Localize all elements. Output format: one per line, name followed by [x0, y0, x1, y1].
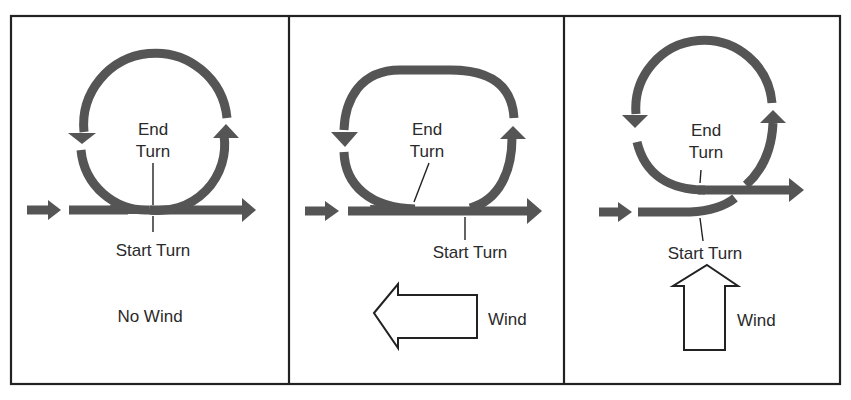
panel-no-wind: End Turn Start Turn No Wind: [27, 53, 256, 326]
end-turn-label-line1: End: [691, 121, 721, 140]
start-turn-label: Start Turn: [433, 243, 508, 262]
entry-arrow-icon: [27, 200, 61, 220]
wind-label: Wind: [488, 310, 527, 329]
entry-arrow-icon: [599, 202, 632, 222]
end-turn-leader: [414, 163, 429, 202]
wind-arrow-up-icon: [673, 265, 738, 350]
start-turn-label: Start Turn: [668, 244, 743, 263]
no-wind-label: No Wind: [117, 307, 182, 326]
end-turn-leader: [700, 170, 701, 183]
start-turn-label: Start Turn: [116, 241, 191, 260]
panel-wind-left: End Turn Start Turn Wind: [305, 70, 542, 348]
end-turn-label-line1: End: [138, 120, 168, 139]
entry-arrow-icon: [305, 201, 339, 221]
panel-wind-up: End Turn Start Turn Wind: [599, 40, 804, 350]
end-turn-label-line2: Turn: [410, 142, 444, 161]
end-turn-label-line1: End: [412, 120, 442, 139]
turn-diagram: End Turn Start Turn No Wind End Turn: [0, 0, 851, 400]
wind-arrow-left-icon: [374, 284, 477, 348]
wind-label: Wind: [737, 311, 776, 330]
start-turn-leader: [700, 218, 703, 241]
end-turn-label-line2: Turn: [136, 142, 170, 161]
end-turn-label-line2: Turn: [689, 143, 723, 162]
